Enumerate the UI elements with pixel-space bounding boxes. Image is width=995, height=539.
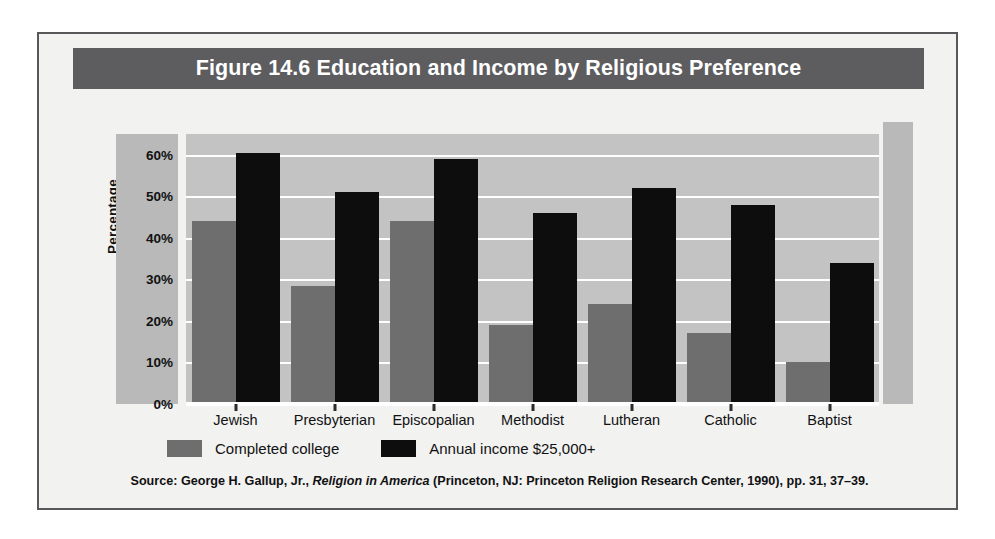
x-axis-tick-mark: [333, 404, 336, 411]
y-axis-tick-label: 20%: [146, 313, 173, 328]
bar: [192, 221, 236, 404]
legend-label: Completed college: [215, 440, 339, 457]
bar: [731, 205, 775, 404]
legend-item: Completed college: [167, 440, 339, 457]
source-prefix: Source: George H. Gallup, Jr.,: [131, 474, 313, 488]
bar: [434, 159, 478, 404]
legend-swatch-annual-income: [381, 440, 416, 457]
bar: [533, 213, 577, 404]
figure-title-bar: Figure 14.6 Education and Income by Reli…: [73, 48, 924, 89]
x-axis-labels: JewishPresbyterianEpiscopalianMethodistL…: [186, 412, 879, 436]
x-axis-label: Methodist: [501, 412, 564, 428]
bar: [687, 333, 731, 404]
x-axis-tick-mark: [432, 404, 435, 411]
y-axis-tick-label: 50%: [146, 189, 173, 204]
y-axis-tick-label: 0%: [153, 397, 173, 412]
x-axis-tick-marks: [186, 404, 879, 412]
y-axis-tick-label: 60%: [146, 147, 173, 162]
bar: [236, 153, 280, 404]
bar: [632, 188, 676, 404]
figure-frame: Figure 14.6 Education and Income by Reli…: [37, 32, 958, 510]
chart-legend: Completed collegeAnnual income $25,000+: [167, 440, 596, 457]
y-axis-tick-label: 40%: [146, 230, 173, 245]
x-axis-label: Lutheran: [603, 412, 660, 428]
x-axis-tick-mark: [729, 404, 732, 411]
right-wall-panel: [883, 122, 913, 404]
bar: [390, 221, 434, 404]
gridline: [186, 196, 879, 198]
figure-title: Figure 14.6 Education and Income by Reli…: [196, 56, 801, 81]
x-axis-label: Presbyterian: [294, 412, 375, 428]
legend-label: Annual income $25,000+: [429, 440, 595, 457]
x-axis-label: Baptist: [807, 412, 851, 428]
x-axis-tick-mark: [630, 404, 633, 411]
y-axis-tick-labels: 0%10%20%30%40%50%60%: [113, 134, 179, 404]
y-axis-tick-label: 10%: [146, 355, 173, 370]
x-axis-label: Catholic: [704, 412, 756, 428]
bar: [830, 263, 874, 404]
x-axis-tick-mark: [531, 404, 534, 411]
x-axis-label: Jewish: [213, 412, 257, 428]
source-suffix: (Princeton, NJ: Princeton Religion Resea…: [430, 474, 869, 488]
chart-area: Percentage 0%10%20%30%40%50%60% JewishPr…: [61, 114, 941, 404]
bar: [335, 192, 379, 404]
gridline: [186, 155, 879, 157]
bar: [786, 362, 830, 404]
source-italic-title: Religion in America: [313, 474, 430, 488]
legend-item: Annual income $25,000+: [381, 440, 595, 457]
bar: [588, 304, 632, 404]
x-axis-label: Episcopalian: [392, 412, 474, 428]
x-axis-tick-mark: [234, 404, 237, 411]
y-axis-tick-label: 30%: [146, 272, 173, 287]
bar: [291, 286, 335, 404]
legend-swatch-completed-college: [167, 440, 202, 457]
bar: [489, 325, 533, 404]
source-note: Source: George H. Gallup, Jr., Religion …: [39, 474, 960, 488]
plot-area: [186, 134, 879, 404]
x-axis-tick-mark: [828, 404, 831, 411]
